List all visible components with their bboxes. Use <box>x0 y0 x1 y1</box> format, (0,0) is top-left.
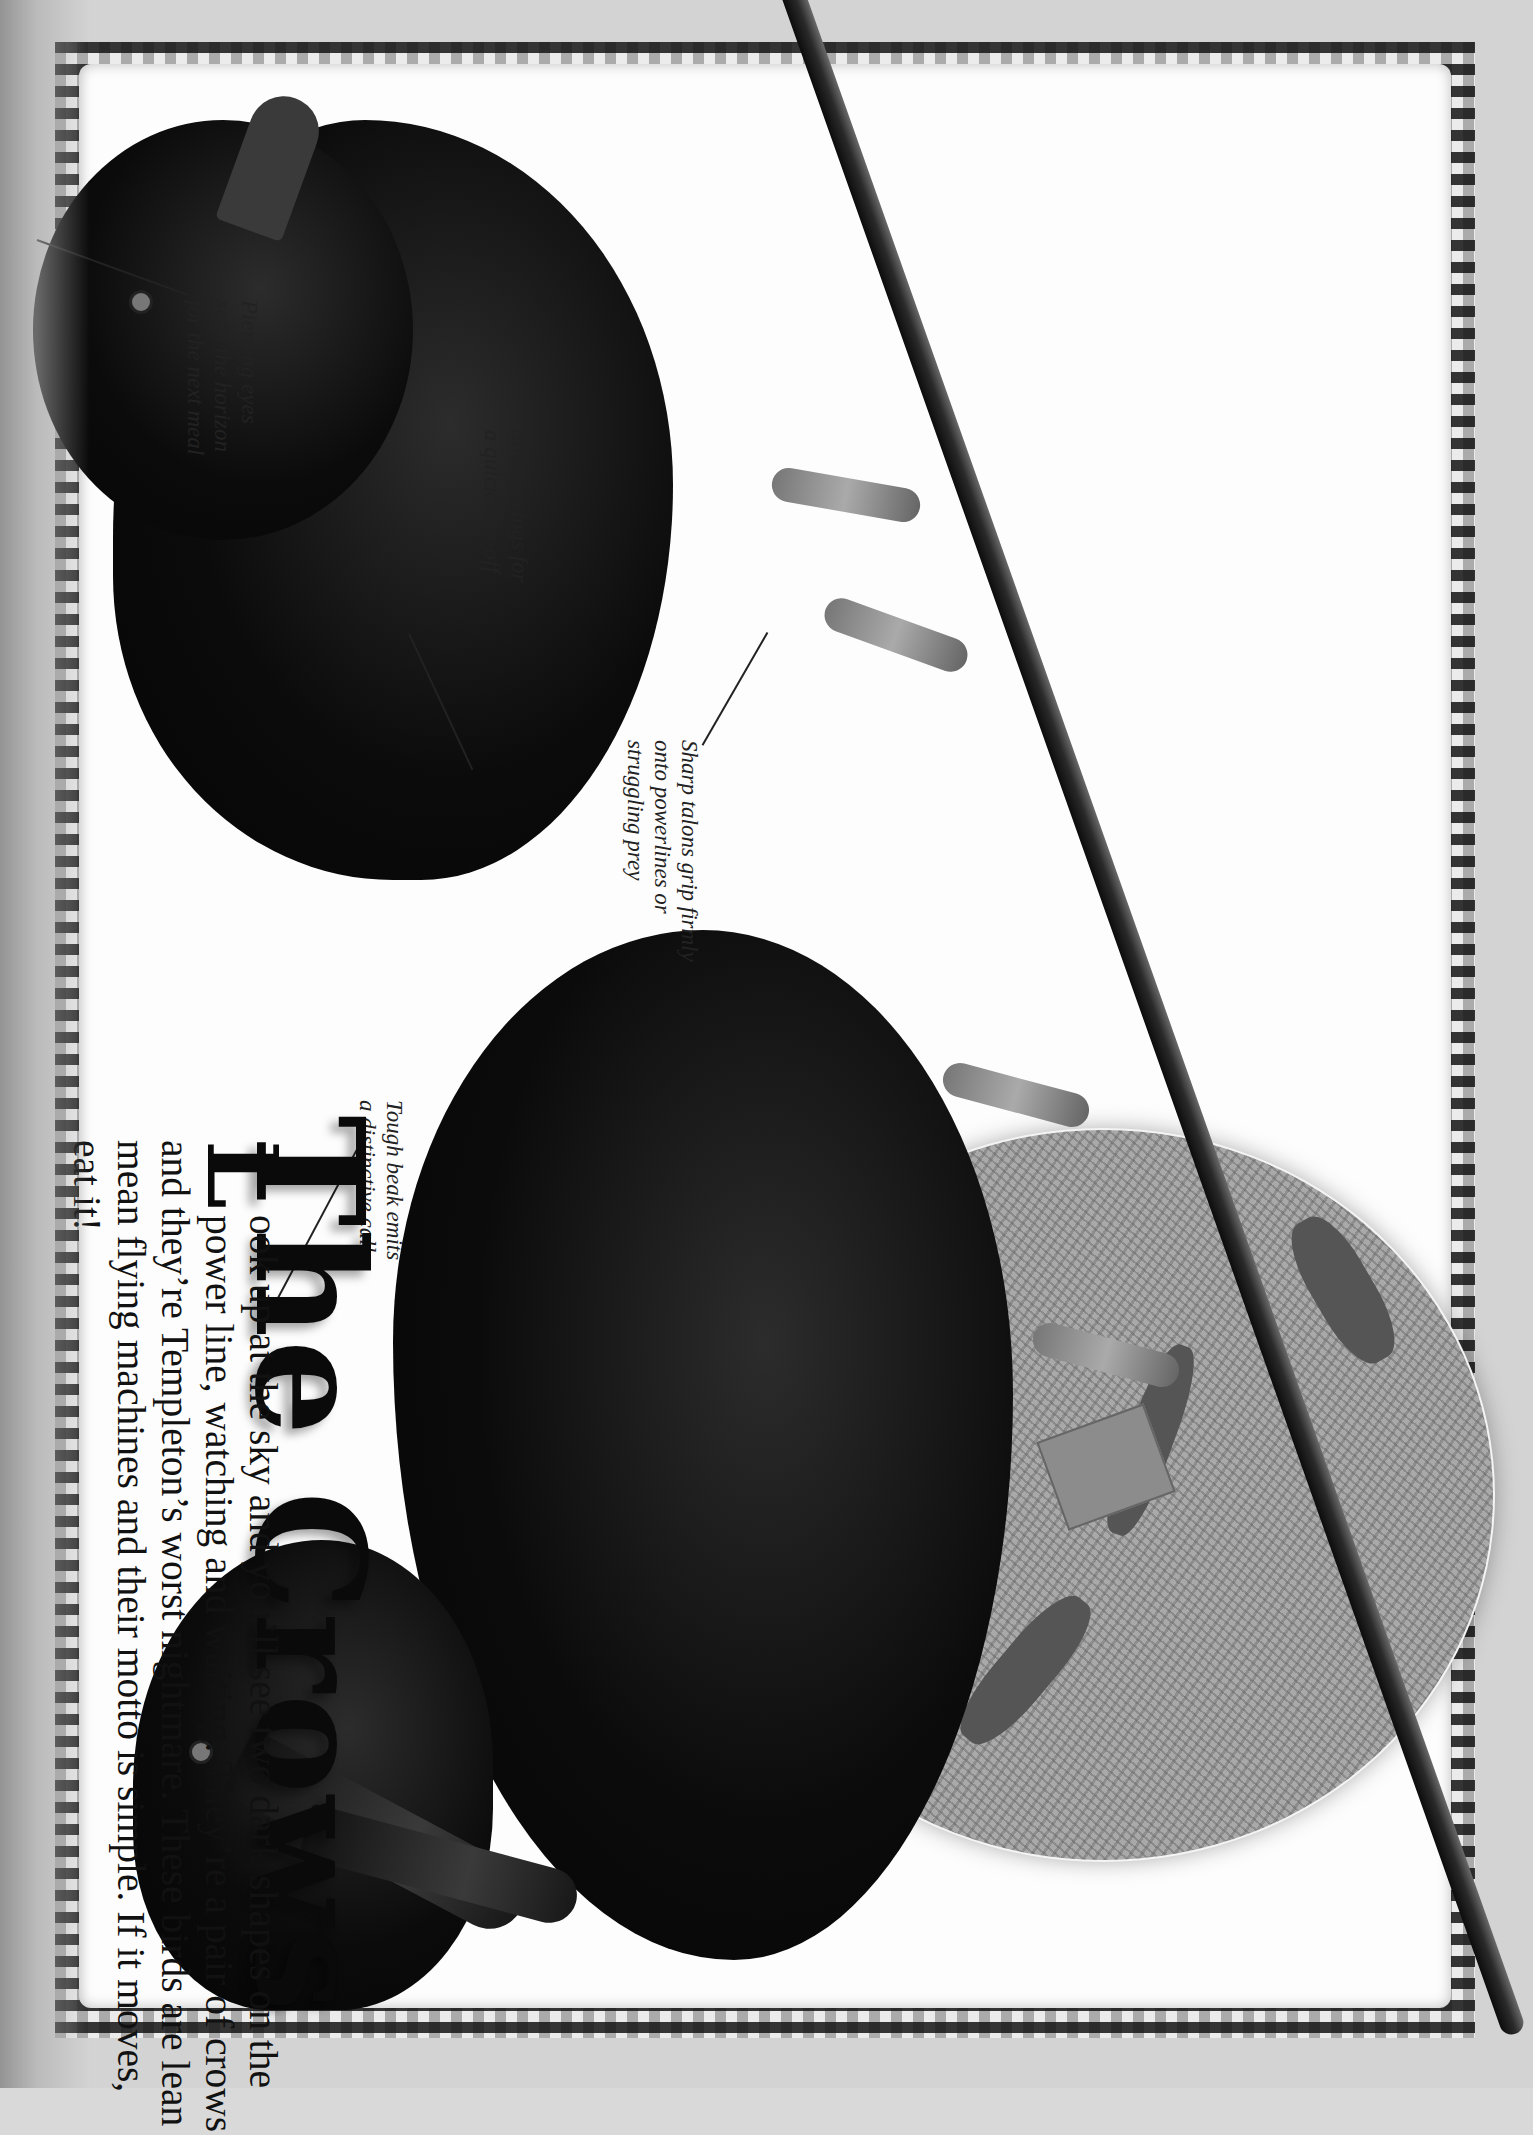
annotation-wings: Strong wings for a quick take-off <box>479 430 533 583</box>
drop-cap: L <box>201 1140 283 1209</box>
body-paragraph: Look up at the sky and you’ll see two da… <box>65 1140 285 2135</box>
annotation-eyes: Piercing eyes scan the horizon for the n… <box>182 300 263 455</box>
page-binding-shadow <box>0 0 90 2088</box>
left-crow-eye <box>129 290 153 314</box>
annotation-talons: Sharp talons grip firmly onto powerlines… <box>622 740 703 962</box>
body-text: ook up at the sky and you’ll see two dar… <box>65 1140 285 2132</box>
